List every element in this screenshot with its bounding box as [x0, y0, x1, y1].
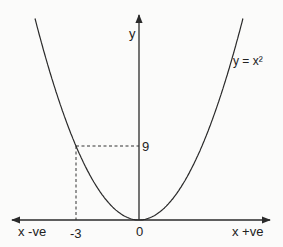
origin-label: 0: [136, 225, 143, 238]
x-negative-label: x -ve: [18, 225, 46, 238]
parabola-chart: [0, 0, 283, 247]
curve-label: y = x²: [233, 55, 263, 67]
x-positive-label: x +ve: [232, 225, 263, 238]
y-axis-label: y: [129, 27, 136, 40]
x-tick-minus-3: -3: [70, 227, 82, 240]
y-tick-9: 9: [142, 140, 149, 153]
